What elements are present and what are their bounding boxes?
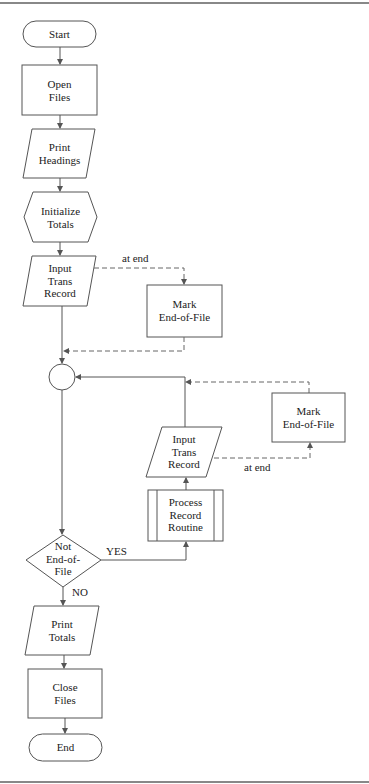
edge-label-yes: YES	[106, 545, 127, 557]
routine-line-3: Routine	[157, 521, 214, 534]
start-label: Start	[23, 28, 96, 41]
open-files-line-2: Files	[22, 91, 97, 104]
input-trans-record-label-2: Input Trans Record	[146, 433, 222, 471]
dashed-at-end-path-2	[214, 443, 310, 458]
open-files-label: Open Files	[22, 78, 97, 103]
mark-eof-1-line-2: End-of-File	[147, 311, 222, 324]
input-2-line-1: Input	[146, 433, 222, 446]
decision-line-1: Not	[33, 540, 93, 553]
print-totals-line-1: Print	[25, 618, 99, 631]
dashed-at-end-path-1	[94, 268, 184, 284]
connector-circle	[49, 364, 75, 390]
initialize-totals-line-1: Initialize	[24, 205, 97, 218]
initialize-totals-line-2: Totals	[24, 218, 97, 231]
mark-eof-2-line-2: End-of-File	[272, 418, 345, 431]
input-1-line-3: Record	[22, 287, 98, 300]
decision-line-2: End-of-	[33, 553, 93, 566]
mark-eof-2-line-1: Mark	[272, 405, 345, 418]
print-headings-line-2: Headings	[22, 154, 97, 167]
mark-eof-label-2: Mark End-of-File	[272, 405, 345, 430]
loop-return-line	[76, 377, 185, 427]
open-files-line-1: Open	[22, 78, 97, 91]
process-record-routine-label: Process Record Routine	[157, 496, 214, 534]
close-files-line-2: Files	[28, 694, 102, 707]
input-2-line-3: Record	[146, 458, 222, 471]
print-totals-line-2: Totals	[25, 631, 99, 644]
print-headings-line-1: Print	[22, 141, 97, 154]
edge-label-at-end-1: at end	[122, 252, 149, 264]
print-totals-label: Print Totals	[25, 618, 99, 643]
flowchart-canvas	[0, 0, 369, 784]
edge-label-at-end-2: at end	[244, 461, 271, 473]
routine-line-2: Record	[157, 509, 214, 522]
print-headings-label: Print Headings	[22, 141, 97, 166]
decision-label: Not End-of- File	[33, 540, 93, 578]
end-label: End	[29, 741, 102, 754]
mark-eof-1-line-1: Mark	[147, 298, 222, 311]
decision-line-3: File	[33, 565, 93, 578]
close-files-line-1: Close	[28, 681, 102, 694]
close-files-label: Close Files	[28, 681, 102, 706]
input-trans-record-label-1: Input Trans Record	[22, 262, 98, 300]
dashed-eof-return-1	[64, 337, 184, 351]
initialize-totals-label: Initialize Totals	[24, 205, 97, 230]
dashed-eof-return-2	[186, 382, 309, 393]
mark-eof-label-1: Mark End-of-File	[147, 298, 222, 323]
edge-label-no: NO	[72, 586, 88, 598]
routine-line-1: Process	[157, 496, 214, 509]
input-1-line-1: Input	[22, 262, 98, 275]
input-1-line-2: Trans	[22, 275, 98, 288]
input-2-line-2: Trans	[146, 446, 222, 459]
